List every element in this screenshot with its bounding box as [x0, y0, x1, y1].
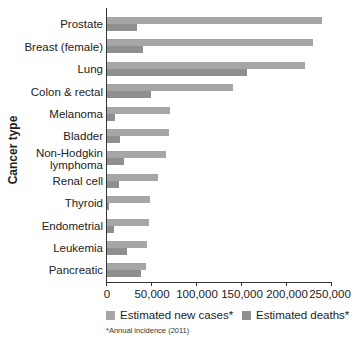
x-tick [286, 282, 287, 286]
legend-swatch-new-cases [106, 311, 115, 320]
category-label: Colon & rectal [31, 86, 103, 98]
y-axis-title-text: Cancer type [6, 108, 20, 192]
legend-label-new-cases: Estimated new cases* [120, 309, 233, 321]
x-tick-label: 250,000 [309, 288, 351, 300]
footnote: *Annual incidence (2011) [106, 326, 189, 335]
category-label: Renal cell [53, 175, 104, 187]
bar-deaths [107, 203, 109, 210]
bar-new-cases [107, 263, 146, 270]
legend-swatch-deaths [242, 311, 251, 320]
category-label: Pancreatic [49, 264, 103, 276]
bar-deaths [107, 46, 143, 53]
x-tick-label: 100,000 [176, 288, 218, 300]
bar-new-cases [107, 107, 170, 114]
x-tick [331, 282, 332, 286]
bar-new-cases [107, 219, 149, 226]
bar-deaths [107, 136, 120, 143]
legend-item-new-cases: Estimated new cases* [106, 309, 233, 321]
category-label: Prostate [60, 18, 103, 30]
category-label: Melanoma [49, 108, 103, 120]
bar-new-cases [107, 129, 169, 136]
bar-new-cases [107, 151, 166, 158]
category-label: Endometrial [42, 220, 103, 232]
y-axis-line [106, 8, 107, 283]
category-label: Bladder [63, 130, 103, 142]
bar-new-cases [107, 196, 150, 203]
category-label: lymphoma [50, 159, 103, 171]
category-label: Non-Hodgkin [36, 147, 103, 159]
bar-deaths [107, 69, 247, 76]
legend-item-deaths: Estimated deaths* [242, 309, 349, 321]
x-tick [106, 282, 107, 286]
bar-new-cases [107, 39, 313, 46]
bar-deaths [107, 181, 119, 188]
x-tick [151, 282, 152, 286]
x-tick-label: 200,000 [266, 288, 308, 300]
bar-new-cases [107, 17, 322, 24]
bar-new-cases [107, 62, 305, 69]
category-label: Lung [77, 63, 103, 75]
x-axis-line [106, 282, 332, 283]
category-label: Breast (female) [24, 41, 103, 53]
x-tick-label: 150,000 [221, 288, 263, 300]
bar-deaths [107, 226, 114, 233]
bar-deaths [107, 114, 115, 121]
category-label: Thyroid [65, 197, 103, 209]
legend-label-deaths: Estimated deaths* [256, 309, 349, 321]
bar-new-cases [107, 84, 233, 91]
category-label: Leukemia [53, 242, 103, 254]
x-tick-label: 0 [104, 288, 110, 300]
bar-deaths [107, 91, 151, 98]
bar-new-cases [107, 174, 158, 181]
x-tick [241, 282, 242, 286]
x-tick [196, 282, 197, 286]
bar-deaths [107, 248, 127, 255]
bar-deaths [107, 24, 137, 31]
x-tick-label: 50,000 [134, 288, 169, 300]
bar-deaths [107, 270, 141, 277]
bar-new-cases [107, 241, 147, 248]
bar-deaths [107, 158, 124, 165]
